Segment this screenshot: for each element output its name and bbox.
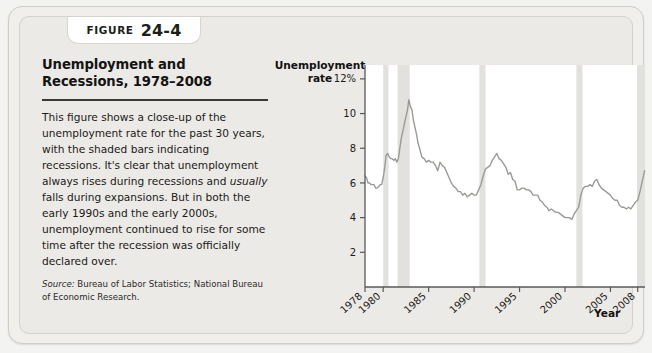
figure-outer-frame: Figure 24-4 Unemployment and Recessions,…	[8, 6, 644, 344]
chart-panel: Unemployment rate 24681012% 197819801985…	[272, 55, 652, 327]
unemployment-line-chart: 24681012% 197819801985199019952000200520…	[272, 55, 652, 327]
y-axis-ticks-group: 24681012%	[334, 73, 365, 257]
x-axis-tick-label: 1995	[493, 290, 519, 315]
recession-band	[479, 65, 485, 287]
y-axis-tick-label: 2	[350, 247, 356, 258]
y-axis-tick-label: 6	[350, 178, 356, 189]
x-axis-tick-label: 2000	[538, 290, 564, 315]
figure-tab-word: Figure	[87, 24, 134, 36]
source-label: Source:	[42, 279, 75, 289]
x-axis-ticks-group: 19781980198519901995200020052008	[338, 287, 638, 316]
y-axis-tick-label: 10	[343, 108, 356, 119]
figure-number-tab: Figure 24-4	[67, 17, 201, 44]
figure-inner-panel: Figure 24-4 Unemployment and Recessions,…	[19, 16, 633, 334]
figure-page: Figure 24-4 Unemployment and Recessions,…	[0, 0, 652, 353]
y-axis-tick-label: 8	[350, 143, 356, 154]
figure-tab-number: 24-4	[141, 21, 182, 40]
source-text: Bureau of Labor Statistics; National Bur…	[42, 279, 263, 301]
caption-text-part2: falls during expansions. But in both the…	[42, 191, 265, 267]
y-axis-tick-label: 4	[350, 212, 356, 223]
recession-band	[398, 65, 410, 287]
caption-text-emphasis: usually	[230, 175, 268, 187]
recession-band	[576, 65, 582, 287]
x-axis-tick-label: 1985	[402, 290, 428, 315]
figure-caption-body: This figure shows a close-up of the unem…	[42, 109, 268, 270]
figure-source: Source: Bureau of Labor Statistics; Nati…	[42, 278, 268, 303]
x-axis-tick-label: 1990	[447, 290, 473, 315]
x-axis-title: Year	[594, 307, 620, 319]
figure-title: Unemployment and Recessions, 1978–2008	[42, 57, 268, 90]
caption-column: Unemployment and Recessions, 1978–2008 T…	[42, 57, 268, 287]
caption-divider	[42, 99, 268, 101]
y-axis-tick-label: 12%	[334, 73, 356, 84]
